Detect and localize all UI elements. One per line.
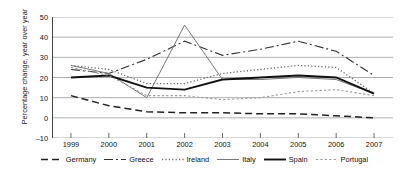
y-axis-title: Percentage change, year over year — [20, 0, 29, 137]
x-axis-tick-label: 2003 — [214, 140, 230, 149]
x-axis-tick-label: 2005 — [290, 140, 306, 149]
legend-label: Germany — [66, 155, 96, 164]
y-axis-tick-label: 10 — [40, 93, 48, 102]
legend-swatch-greece-icon — [104, 156, 126, 163]
legend-swatch-ireland-icon — [162, 156, 184, 163]
x-axis-tick-label: 2000 — [101, 140, 117, 149]
legend-item-ireland[interactable]: Ireland — [162, 155, 210, 164]
legend-item-portugal[interactable]: Portugal — [316, 155, 369, 164]
x-axis-tick-labels: 199920002001200220032004200520062007 — [52, 140, 393, 154]
legend-swatch-spain-icon — [264, 156, 286, 163]
legend-item-italy[interactable]: Italy — [217, 155, 256, 164]
series-line-spain — [71, 75, 374, 93]
legend-swatch-germany-icon — [41, 156, 63, 163]
legend-item-greece[interactable]: Greece — [104, 155, 153, 164]
chart-legend: GermanyGreeceIrelandItalySpainPortugal — [0, 155, 409, 164]
plot-area: –1001020304050 — [52, 17, 393, 138]
y-axis-tick-label: –10 — [36, 134, 48, 143]
x-axis-tick-label: 2006 — [328, 140, 344, 149]
series-line-germany — [71, 96, 374, 118]
chart-svg — [52, 17, 393, 138]
legend-swatch-portugal-icon — [316, 156, 338, 163]
series-line-portugal — [71, 67, 374, 99]
legend-item-spain[interactable]: Spain — [264, 155, 308, 164]
x-axis-tick-label: 2002 — [176, 140, 192, 149]
legend-label: Ireland — [187, 155, 210, 164]
x-axis-tick-label: 2001 — [138, 140, 154, 149]
legend-item-germany[interactable]: Germany — [41, 155, 96, 164]
y-axis-tick-label: 0 — [44, 113, 48, 122]
legend-swatch-italy-icon — [217, 156, 239, 163]
legend-label: Greece — [129, 155, 153, 164]
legend-label: Portugal — [341, 155, 369, 164]
x-axis-tick-label: 1999 — [63, 140, 79, 149]
series-line-italy — [71, 25, 374, 98]
line-chart-figure: Percentage change, year over year –10010… — [0, 0, 409, 176]
y-axis-tick-label: 40 — [40, 33, 48, 42]
y-axis-tick-label: 30 — [40, 53, 48, 62]
y-axis-tick-label: 50 — [40, 13, 48, 22]
y-axis-tick-label: 20 — [40, 73, 48, 82]
legend-label: Spain — [289, 155, 308, 164]
plot-canvas — [52, 17, 393, 138]
legend-label: Italy — [242, 155, 256, 164]
series-line-greece — [71, 41, 374, 75]
x-axis-tick-label: 2004 — [252, 140, 268, 149]
x-axis-tick-label: 2007 — [366, 140, 382, 149]
